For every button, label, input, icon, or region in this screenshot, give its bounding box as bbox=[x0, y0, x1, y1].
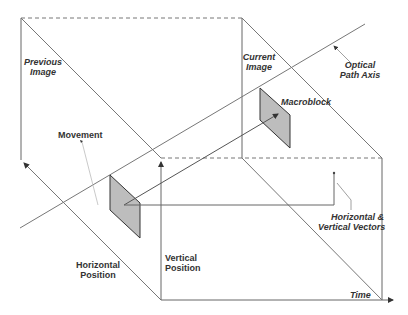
hv-vector-end bbox=[333, 172, 335, 174]
label-line: Horizontal & bbox=[318, 212, 384, 222]
label-movement: Movement bbox=[58, 130, 103, 140]
label-optical-path-axis: Optical Path Axis bbox=[335, 60, 385, 80]
motion-vector bbox=[124, 114, 278, 205]
label-line: Vertical Vectors bbox=[318, 222, 384, 232]
label-macroblock: Macroblock bbox=[281, 97, 331, 107]
hv-leader bbox=[337, 183, 351, 210]
current-image-diagonal bbox=[242, 18, 382, 158]
label-line: Vertical bbox=[165, 253, 201, 263]
label-current-image: Current Image bbox=[242, 52, 276, 72]
diagram-canvas bbox=[0, 0, 408, 315]
label-line: Horizontal bbox=[75, 260, 121, 270]
label-horizontal-position: Horizontal Position bbox=[75, 260, 121, 280]
label-line: Previous bbox=[22, 57, 64, 67]
label-line: Image bbox=[22, 67, 64, 77]
label-line: Position bbox=[165, 263, 201, 273]
label-line: Position bbox=[75, 270, 121, 280]
optical-path-axis bbox=[20, 24, 365, 228]
label-vertical-position: Vertical Position bbox=[165, 253, 201, 273]
hv-vectors bbox=[124, 173, 334, 205]
label-line: Optical bbox=[335, 60, 385, 70]
label-hv-vectors: Horizontal & Vertical Vectors bbox=[318, 212, 384, 232]
label-time: Time bbox=[350, 290, 371, 300]
label-line: Current bbox=[242, 52, 276, 62]
label-line: Image bbox=[242, 62, 276, 72]
previous-macroblock bbox=[110, 175, 140, 238]
label-line: Path Axis bbox=[335, 70, 385, 80]
label-previous-image: Previous Image bbox=[22, 57, 64, 77]
movement-leader bbox=[82, 142, 98, 205]
